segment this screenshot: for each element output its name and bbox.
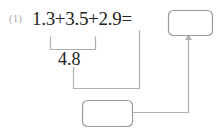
problem-number-label: (1) <box>9 13 22 24</box>
connector-partial-sum-to-third-term <box>74 30 140 89</box>
partial-answer-box[interactable] <box>83 101 133 127</box>
partial-sum-value: 4.8 <box>58 50 81 68</box>
math-worksheet-problem: (1) 1.3+3.5+2.9= 4.8 <box>0 0 222 138</box>
connector-partial-box-to-answer-box <box>133 34 192 113</box>
final-answer-box[interactable] <box>169 11 213 36</box>
equation-expression: 1.3+3.5+2.9= <box>32 9 132 28</box>
grouping-bracket-icon <box>51 37 96 50</box>
